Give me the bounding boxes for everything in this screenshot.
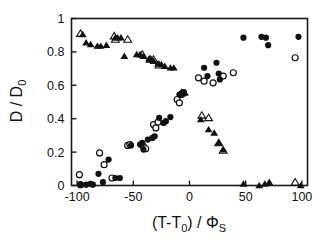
y-tick-label: 0.2: [47, 146, 64, 160]
data-point: [105, 157, 111, 163]
chart-figure: -100-50050100 00.20.40.60.81 (T-T0) / ΦS…: [0, 0, 329, 242]
data-point: [201, 65, 207, 71]
y-tick-label: 0: [58, 179, 65, 193]
data-point: [140, 146, 146, 152]
data-point: [90, 182, 96, 188]
data-point: [295, 34, 301, 40]
data-point: [77, 182, 83, 188]
data-point: [292, 55, 298, 61]
data-point: [217, 76, 223, 82]
data-point: [240, 35, 246, 41]
data-point: [213, 60, 219, 66]
data-point: [101, 162, 107, 168]
data-point: [195, 75, 201, 81]
x-tick-label: -100: [65, 190, 90, 204]
data-point: [210, 80, 216, 86]
data-point: [76, 172, 82, 178]
scatter-plot: -100-50050100 00.20.40.60.81 (T-T0) / ΦS…: [0, 0, 329, 242]
x-tick-label: -50: [124, 190, 142, 204]
data-point: [230, 70, 236, 76]
data-point: [139, 140, 145, 146]
data-point: [128, 142, 134, 148]
data-point: [117, 175, 123, 181]
x-tick-label: 100: [291, 190, 312, 204]
data-point: [201, 78, 207, 84]
data-point: [153, 125, 159, 131]
data-point: [176, 100, 182, 106]
y-tick-label: 0.6: [47, 79, 64, 93]
data-point: [216, 71, 222, 77]
x-tick-label: 0: [186, 190, 193, 204]
y-tick-label: 1: [58, 12, 65, 26]
x-tick-label: 50: [239, 190, 253, 204]
data-point: [263, 35, 269, 41]
data-point: [152, 133, 158, 139]
data-point: [97, 150, 103, 156]
data-point: [265, 42, 271, 48]
data-point: [167, 114, 173, 120]
y-tick-label: 0.4: [47, 112, 64, 126]
data-point: [204, 73, 210, 79]
data-point: [95, 171, 101, 177]
data-point: [156, 115, 162, 121]
y-tick-label: 0.8: [47, 45, 64, 59]
data-point: [100, 179, 106, 185]
